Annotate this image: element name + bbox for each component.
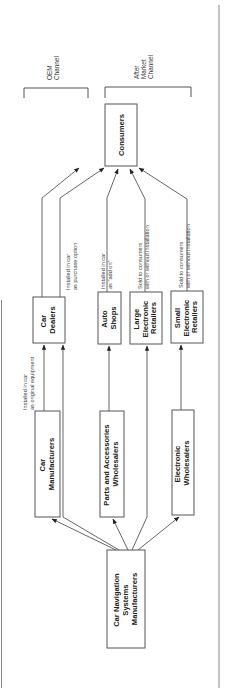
oem-channel-bracket: OEM Channel	[24, 56, 88, 98]
svg-text:Auto Shops: Auto Shops	[100, 306, 118, 329]
arrow-source-to-electronic-wholesalers	[138, 517, 179, 550]
label-add-on: Installed in car as "add on"	[100, 251, 113, 289]
node-auto-shops: Auto Shops	[98, 292, 121, 344]
label-small-retailers-sold: Sold to consumers with or without instal…	[178, 224, 191, 289]
svg-text:Electronic Wholesalers: Electronic Wholesalers	[173, 441, 191, 486]
node-parts-accessories-wholesalers: Parts and Accessories Wholesalers	[100, 411, 124, 517]
node-large-electronic-retailers: Large Electronic Retailers	[130, 292, 162, 344]
arrow-source-to-parts-wholesalers	[113, 519, 128, 550]
label-purchase-option: Installed in car as purchase option	[65, 243, 78, 290]
label-large-retailers-sold: Sold to consumers with or without instal…	[137, 225, 150, 290]
aftermarket-channel-bracket: After Market Channel	[105, 55, 191, 98]
label-original-equipment: Installed in car as original equipment	[22, 356, 35, 410]
line-source-to-large-retailers	[132, 346, 147, 550]
middle-arrows	[44, 345, 181, 411]
node-car-navigation-systems-manufacturers: Car Navigation Systems Manufacturers	[107, 550, 145, 648]
node-car-dealers: Car Dealers	[33, 297, 65, 343]
node-electronic-wholesalers: Electronic Wholesalers	[172, 410, 194, 515]
oem-channel-label: OEM Channel	[46, 56, 60, 80]
arrow-source-to-car-manufacturers	[52, 519, 116, 550]
svg-text:Consumers: Consumers	[117, 114, 126, 156]
aftermarket-channel-label: After Market Channel	[133, 55, 154, 79]
node-small-electronic-retailers: Small Electronic Retailers	[171, 291, 203, 343]
node-car-manufacturers: Car Manufacturers	[35, 411, 60, 517]
distribution-channel-diagram: OEM Channel After Market Channel Consume…	[0, 0, 227, 688]
node-consumers: Consumers	[105, 104, 137, 166]
consumer-arrows	[42, 168, 187, 297]
